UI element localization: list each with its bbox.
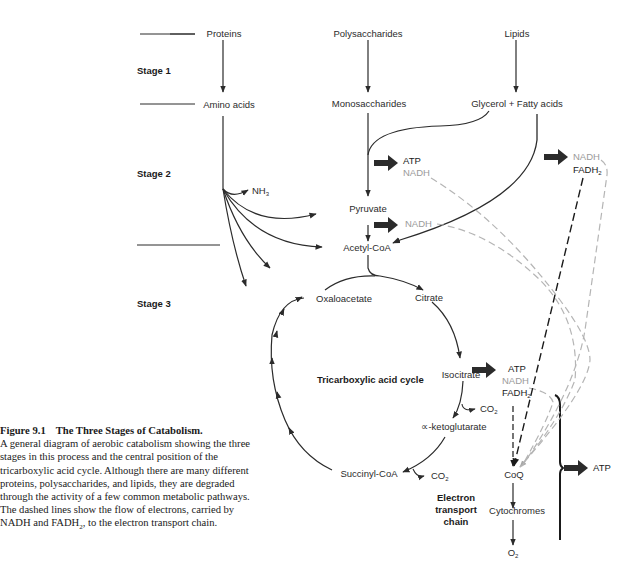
figure-caption: Figure 9.1The Three Stages of Catabolism…: [0, 424, 262, 535]
acetyl-coa-label: Acetyl-CoA: [343, 243, 391, 253]
lipids-label: Lipids: [505, 29, 530, 39]
cytochromes-label: Cytochromes: [489, 506, 545, 516]
coq-label: CoQ: [504, 470, 524, 480]
succinyl-coa-label: Succinyl-CoA: [340, 469, 397, 479]
polysaccharides-label: Polysaccharides: [333, 29, 402, 39]
pyruvate-label: Pyruvate: [349, 204, 387, 214]
caption-body: A general diagram of aerobic catabolism …: [0, 438, 250, 528]
tca-co2-1-label: CO2: [480, 404, 498, 415]
amino-acids-label: Amino acids: [203, 100, 255, 110]
tca-fadh2-label: FADH2: [502, 388, 531, 399]
figure-title: The Three Stages of Catabolism.: [56, 425, 203, 436]
oxaloacetate-label: Oxaloacetate: [316, 294, 372, 304]
glycolysis-atp-label: ATP: [403, 156, 421, 166]
nh3-label: NH3: [252, 186, 269, 197]
tca-nadh-label: NADH: [502, 376, 529, 386]
pyruvate-nadh-label: NADH: [405, 219, 432, 229]
etc-atp-label: ATP: [593, 463, 611, 473]
stage-3-label: Stage 3: [137, 299, 171, 309]
glycolysis-nadh-label: NADH: [403, 168, 430, 178]
citrate-label: Citrate: [415, 293, 443, 303]
o2-label: O2: [508, 548, 519, 559]
tca-atp-label: ATP: [508, 364, 526, 374]
lipid-fadh2-label: FADH2: [573, 165, 602, 176]
lipid-nadh-label: NADH: [573, 152, 600, 162]
proteins-label: Proteins: [207, 29, 242, 39]
stage-1-label: Stage 1: [137, 66, 171, 76]
alpha-ketoglutarate-label: ∝-ketoglutarate: [421, 422, 486, 432]
monosaccharides-label: Monosaccharides: [332, 99, 406, 109]
electron-transport-chain-title: Electron transport chain: [435, 492, 477, 528]
tca-co2-2-label: CO2: [431, 471, 449, 482]
figure-number: Figure 9.1: [0, 425, 46, 436]
isocitrate-label: Isocitrate: [442, 370, 481, 380]
glycerol-fatty-acids-label: Glycerol + Fatty acids: [471, 99, 563, 109]
tca-cycle-title: Tricarboxylic acid cycle: [317, 375, 424, 385]
stage-2-label: Stage 2: [137, 169, 171, 179]
